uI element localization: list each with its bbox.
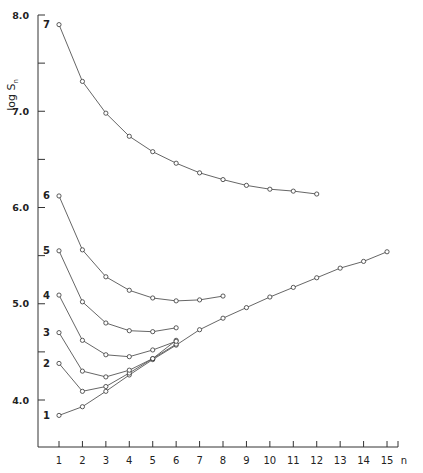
data-point: [151, 330, 155, 334]
y-axis-title-main: log S: [5, 84, 18, 111]
data-point: [361, 259, 365, 263]
line-chart: 8.07.06.05.04.0123456789101112131415nlog…: [0, 0, 423, 473]
data-point: [221, 316, 225, 320]
data-point: [57, 361, 61, 365]
x-tick-label: 9: [243, 455, 249, 466]
curve-label-1: 1: [43, 410, 50, 421]
data-point: [338, 266, 342, 270]
data-point: [57, 249, 61, 253]
x-tick-label: 8: [220, 455, 226, 466]
x-tick-label: 11: [287, 455, 300, 466]
data-point: [80, 338, 84, 342]
curve-label-7: 7: [43, 19, 50, 30]
data-point: [221, 177, 225, 181]
data-point: [127, 355, 131, 359]
data-point: [80, 248, 84, 252]
y-tick-label: 4.0: [12, 395, 29, 406]
data-point: [151, 348, 155, 352]
series-line-4: [59, 295, 176, 357]
data-point: [57, 413, 61, 417]
data-point: [221, 294, 225, 298]
x-tick-label: 10: [264, 455, 277, 466]
data-point: [291, 189, 295, 193]
data-point: [104, 275, 108, 279]
data-point: [197, 298, 201, 302]
series-2: [57, 342, 178, 393]
curve-label-6: 6: [43, 190, 50, 201]
data-point: [127, 288, 131, 292]
data-point: [80, 300, 84, 304]
data-point: [151, 296, 155, 300]
data-point: [104, 321, 108, 325]
axes: [38, 15, 398, 447]
data-point: [151, 357, 155, 361]
x-tick-label: 5: [150, 455, 156, 466]
x-tick-label: 1: [56, 455, 62, 466]
data-point: [197, 171, 201, 175]
curve-label-3: 3: [43, 327, 50, 338]
data-point: [80, 405, 84, 409]
x-tick-label: 14: [357, 455, 370, 466]
data-point: [80, 79, 84, 83]
data-point: [104, 353, 108, 357]
data-point: [174, 339, 178, 343]
data-point: [57, 331, 61, 335]
data-point: [291, 285, 295, 289]
x-tick-label: 6: [173, 455, 179, 466]
data-point: [57, 293, 61, 297]
data-point: [244, 306, 248, 310]
series-layer: [57, 23, 389, 418]
y-axis-title-subscript: n: [12, 79, 20, 83]
series-line-7: [59, 25, 317, 194]
data-point: [80, 369, 84, 373]
curve-label-2: 2: [43, 358, 50, 369]
y-axis-title: log Sn: [5, 79, 20, 111]
data-point: [127, 329, 131, 333]
data-point: [104, 384, 108, 388]
x-tick-label: 3: [103, 455, 109, 466]
data-point: [174, 299, 178, 303]
data-point: [174, 161, 178, 165]
data-point: [104, 389, 108, 393]
x-tick-label: 15: [381, 455, 394, 466]
series-7: [57, 23, 319, 197]
labels-layer: 8.07.06.05.04.0123456789101112131415nlog…: [5, 10, 407, 467]
series-line-5: [59, 251, 176, 332]
series-6: [57, 194, 225, 303]
data-point: [57, 194, 61, 198]
series-line-2: [59, 344, 176, 391]
series-4: [57, 293, 178, 359]
y-tick-label: 8.0: [12, 10, 29, 21]
y-tick-label: 5.0: [12, 298, 29, 309]
y-tick-label: 6.0: [12, 202, 29, 213]
data-point: [385, 250, 389, 254]
data-point: [315, 276, 319, 280]
data-point: [174, 326, 178, 330]
x-tick-label: 7: [196, 455, 202, 466]
x-tick-label: 2: [79, 455, 85, 466]
data-point: [127, 134, 131, 138]
curve-label-4: 4: [43, 290, 50, 301]
x-tick-label: 4: [126, 455, 132, 466]
data-point: [244, 183, 248, 187]
data-point: [127, 368, 131, 372]
data-point: [57, 23, 61, 27]
data-point: [268, 187, 272, 191]
data-point: [104, 375, 108, 379]
data-point: [197, 328, 201, 332]
data-point: [315, 192, 319, 196]
series-5: [57, 249, 178, 334]
data-point: [104, 111, 108, 115]
x-tick-label: 13: [334, 455, 347, 466]
data-point: [151, 150, 155, 154]
data-point: [80, 389, 84, 393]
x-axis-title: n: [401, 455, 407, 466]
curve-label-5: 5: [43, 245, 50, 256]
data-point: [268, 295, 272, 299]
x-tick-label: 12: [310, 455, 323, 466]
